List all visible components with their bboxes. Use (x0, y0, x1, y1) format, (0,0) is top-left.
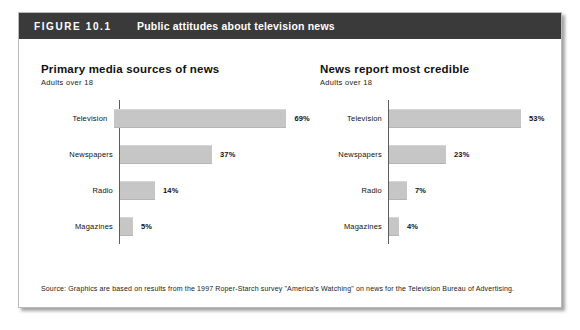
bar-track: 23% (388, 136, 561, 172)
bar-track: 5% (119, 208, 310, 244)
chart-title-right: News report most credible (320, 63, 561, 75)
bar-row: Newspapers 37% (41, 136, 310, 172)
bar-row: Radio 14% (41, 172, 310, 208)
chart-subtitle-left: Adults over 18 (41, 78, 310, 87)
bar-value-label: 23% (446, 150, 470, 159)
bar-row: Newspapers 23% (320, 136, 561, 172)
bar-track: 69% (113, 100, 310, 136)
figure-title: Public attitudes about television news (137, 20, 335, 32)
bar-value-label: 53% (521, 114, 545, 123)
category-label: Newspapers (41, 150, 119, 159)
plot-area-right: Television 53% Newspapers 23% Radio (320, 100, 561, 244)
category-label: Newspapers (320, 150, 388, 159)
bar-row: Magazines 4% (320, 208, 561, 244)
category-label: Magazines (41, 222, 119, 231)
bar-row: Magazines 5% (41, 208, 310, 244)
bar-value-label: 7% (407, 186, 426, 195)
chart-subtitle-right: Adults over 18 (320, 78, 561, 87)
category-label: Television (320, 114, 388, 123)
bar-magazines (120, 217, 133, 236)
bar-television (114, 109, 286, 128)
bar-magazines (389, 217, 399, 236)
source-text: Source: Graphics are based on results fr… (41, 285, 514, 292)
bar-newspapers (389, 145, 446, 164)
figure-number: FIGURE 10.1 (19, 21, 137, 32)
bar-track: 7% (388, 172, 561, 208)
bar-track: 14% (119, 172, 310, 208)
bar-row: Television 53% (320, 100, 561, 136)
bar-row: Television 69% (41, 100, 310, 136)
bar-track: 53% (388, 100, 561, 136)
bar-track: 37% (119, 136, 310, 172)
bar-value-label: 69% (286, 114, 310, 123)
bar-television (389, 109, 521, 128)
chart-title-left: Primary media sources of news (41, 63, 310, 75)
plot-area-left: Television 69% Newspapers 37% Radio (41, 100, 310, 244)
bar-newspapers (120, 145, 212, 164)
bar-radio (389, 181, 407, 200)
bar-value-label: 4% (399, 222, 418, 231)
source-note: Source: Graphics are based on results fr… (19, 269, 561, 307)
charts-area: Primary media sources of news Adults ove… (19, 39, 561, 271)
bar-value-label: 5% (133, 222, 152, 231)
chart-panel-primary-media-sources: Primary media sources of news Adults ove… (19, 39, 310, 271)
figure-header-band: FIGURE 10.1 Public attitudes about telev… (19, 13, 561, 39)
bar-row: Radio 7% (320, 172, 561, 208)
chart-panel-most-credible: News report most credible Adults over 18… (310, 39, 561, 271)
bar-track: 4% (388, 208, 561, 244)
category-label: Magazines (320, 222, 388, 231)
bar-radio (120, 181, 155, 200)
bar-value-label: 37% (212, 150, 236, 159)
bar-value-label: 14% (155, 186, 179, 195)
figure-container: FIGURE 10.1 Public attitudes about telev… (18, 12, 562, 308)
category-label: Radio (320, 186, 388, 195)
category-label: Television (41, 114, 113, 123)
category-label: Radio (41, 186, 119, 195)
